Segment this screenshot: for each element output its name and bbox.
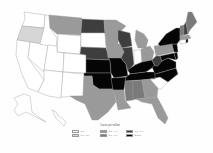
legend-title: Cases per million — [70, 124, 150, 127]
state-vt — [180, 25, 184, 36]
legend-label: 0.1 - 2.4 — [81, 134, 90, 137]
legend-swatch — [72, 134, 79, 137]
legend-item-2: 2.5 - 4.9 — [100, 130, 117, 133]
state-nd — [81, 19, 105, 33]
state-mt — [49, 15, 82, 35]
legend-item-3: 5.0 - 7.4 — [100, 134, 117, 137]
state-ny — [158, 28, 180, 46]
legend-item-5: ≥ 10.0 — [126, 134, 141, 137]
legend-swatch — [126, 130, 133, 133]
map-legend: Cases per million 0.0 0.1 - 2.4 2.5 - 4.… — [70, 124, 150, 144]
state-me — [186, 12, 197, 34]
legend-item-0: 0.0 — [72, 130, 84, 133]
state-wa — [22, 12, 45, 28]
state-hi — [52, 110, 66, 126]
legend-label: 0.0 — [81, 130, 84, 133]
state-ms — [125, 81, 133, 101]
map-figure: Cases per million 0.0 0.1 - 2.4 2.5 - 4.… — [0, 0, 213, 153]
state-ks — [86, 59, 111, 73]
legend-swatch — [126, 134, 133, 137]
state-sd — [81, 33, 106, 48]
legend-item-4: 7.5 - 9.9 — [126, 130, 143, 133]
legend-swatch — [72, 130, 79, 133]
legend-swatch — [100, 134, 107, 137]
legend-label: 5.0 - 7.4 — [109, 134, 118, 137]
state-co — [63, 53, 86, 73]
legend-label: 2.5 - 4.9 — [109, 130, 118, 133]
legend-label: ≥ 10.0 — [135, 134, 142, 137]
legend-label: 7.5 - 9.9 — [135, 130, 144, 133]
legend-swatch — [100, 130, 107, 133]
legend-item-1: 0.1 - 2.4 — [72, 134, 89, 137]
state-ar — [111, 77, 126, 90]
state-fl — [136, 97, 168, 124]
state-ri — [186, 39, 188, 43]
state-ak — [14, 94, 46, 122]
state-oh — [141, 46, 154, 62]
state-wy — [57, 34, 81, 54]
state-nm — [61, 72, 84, 97]
state-mi — [135, 30, 148, 48]
